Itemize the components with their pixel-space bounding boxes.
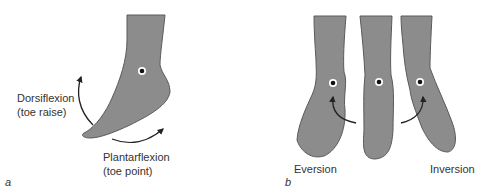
plantarflexion-label: Plantarflexion	[103, 151, 170, 164]
panel-b-letter: b	[285, 176, 291, 188]
inversion-foot	[401, 16, 455, 152]
eversion-foot	[297, 16, 346, 157]
side-view-foot	[83, 15, 170, 138]
dorsiflexion-label: Dorsiflexion	[17, 92, 74, 105]
neutral-foot	[360, 16, 394, 159]
dorsiflexion-arrow	[79, 77, 93, 125]
eversion-label: Eversion	[294, 163, 337, 176]
plantarflexion-arrow	[112, 129, 163, 142]
dorsiflexion-sublabel: (toe raise)	[17, 106, 67, 119]
plantarflexion-sublabel: (toe point)	[103, 165, 153, 178]
panel-a-letter: a	[5, 176, 11, 188]
inversion-label: Inversion	[430, 163, 475, 176]
